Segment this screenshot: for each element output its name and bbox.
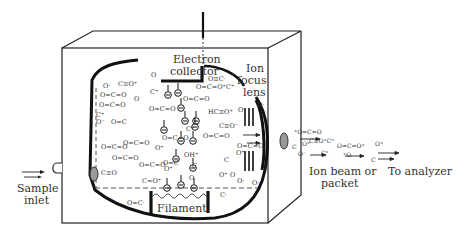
molecule-label: C: [192, 162, 197, 170]
molecule-label: O=C=O: [203, 132, 230, 140]
molecule-label: C≡O: [101, 169, 117, 177]
molecule-label: O·: [103, 82, 110, 90]
molecule-label: C: [371, 156, 376, 163]
molecule-label: O·: [238, 106, 245, 114]
molecule-label: O⁻: [96, 118, 105, 126]
molecule-label: O⁺: [302, 140, 310, 147]
molecule-label: O=C=O: [183, 95, 210, 103]
molecule-label: OH⁺: [184, 151, 198, 159]
molecule-label: O=C: [163, 159, 179, 167]
chamber-side-face: [268, 31, 301, 223]
molecule-label: O=C=O: [162, 134, 189, 142]
molecule-label: O⁺: [375, 140, 383, 147]
molecule-labels: O·C≡O⁺OO=C=OC⁺O=C=OOC⁺O⁻O=CO=C=OO=C=OO=C…: [96, 71, 264, 207]
molecule-label: O⁺: [236, 149, 245, 157]
molecule-label: C⁺: [186, 125, 194, 133]
molecule-label: O: [230, 171, 235, 179]
molecule-label: O=C=O: [101, 143, 128, 151]
ion-focus-lens-label-3: lens: [243, 86, 266, 99]
exit-slit: [280, 133, 288, 149]
molecule-label: O=C=O: [149, 105, 176, 113]
ion-focus-lens: [245, 108, 253, 171]
molecule-label: O: [134, 95, 139, 103]
molecule-label: C≡O⁻: [219, 122, 238, 130]
molecule-label: O⁺: [155, 144, 164, 152]
ion-beam-label-2: packet: [321, 177, 359, 190]
molecule-label: ⁺O=C=O: [294, 128, 322, 135]
molecule-label: C⁺: [150, 88, 158, 96]
molecule-label: O·: [257, 101, 264, 109]
electron-collector-label-2: collector: [170, 65, 220, 78]
filament-label: Filament: [157, 202, 207, 215]
molecule-label: O=C=O: [139, 161, 166, 169]
molecule-label: C: [224, 156, 229, 164]
molecule-label: O: [151, 71, 156, 79]
molecule-label: C⁺: [226, 83, 234, 91]
sample-inlet: [22, 163, 98, 181]
molecule-label: C≡O⁺C⁺: [309, 137, 334, 144]
molecule-label: C·: [220, 191, 227, 199]
molecule-label: O·: [252, 179, 259, 187]
molecule-label: O·: [237, 177, 244, 185]
molecule-label: C: [292, 143, 297, 150]
molecule-label: C=O⁺: [142, 177, 161, 185]
ion-source-diagram: O·C≡O⁺OO=C=OC⁺O=C=OOC⁺O⁻O=CO=C=OO=C=OO=C…: [0, 0, 464, 236]
molecule-label: O=C·: [127, 199, 145, 207]
molecule-label: C≡O⁺: [118, 80, 137, 88]
molecule-label: O⁻: [298, 150, 306, 157]
sample-inlet-label-2: inlet: [24, 194, 50, 207]
molecule-label: O=C=O⁺: [337, 142, 365, 149]
molecule-label: O=C: [111, 118, 127, 126]
molecule-label: HC≡O⁺: [208, 108, 233, 116]
to-analyzer-label: To analyzer: [388, 165, 453, 178]
molecule-label: O=C=O: [100, 91, 127, 99]
molecule-label: O=C=O: [112, 154, 139, 162]
chamber-top-face: [62, 31, 301, 48]
molecule-label: O=C=O⁺: [196, 83, 226, 91]
molecule-label: O⁺: [219, 171, 228, 179]
molecule-label: ⁺O: [343, 151, 351, 158]
ion-beam-molecules: ⁺O=C=OC≡O⁺C⁺O⁺O=C=O⁺O⁺CO⁻C⁺⁺OC: [292, 128, 383, 163]
molecule-label: O=C=O: [99, 101, 126, 109]
molecule-label: O: [189, 174, 194, 182]
